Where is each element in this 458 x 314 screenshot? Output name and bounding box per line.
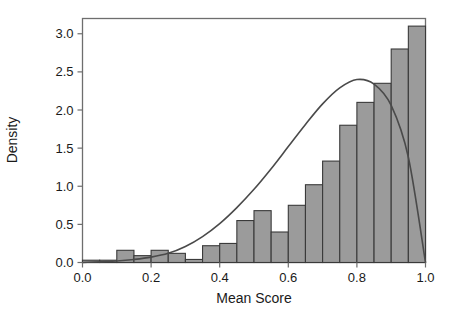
histogram-bar xyxy=(305,185,322,263)
histogram-bar xyxy=(185,259,202,262)
y-axis-title: Density xyxy=(4,117,20,164)
x-tick-label: 0.8 xyxy=(348,270,366,285)
y-tick-label: 0.0 xyxy=(55,255,73,270)
histogram-bar xyxy=(374,83,391,262)
histogram-bar xyxy=(357,102,374,262)
histogram-bar xyxy=(254,211,271,263)
plot-canvas: 0.00.20.40.60.81.0 0.00.51.01.52.02.53.0… xyxy=(0,0,458,314)
histogram-bars xyxy=(83,26,426,262)
x-tick-label: 0.2 xyxy=(142,270,160,285)
histogram-bar xyxy=(408,26,425,262)
histogram-bar xyxy=(288,205,305,262)
histogram-bar xyxy=(220,243,237,262)
x-axis-ticks: 0.00.20.40.60.81.0 xyxy=(73,263,434,285)
histogram-bar xyxy=(168,253,185,262)
density-histogram-figure: 0.00.20.40.60.81.0 0.00.51.01.52.02.53.0… xyxy=(0,0,458,314)
x-tick-label: 0.4 xyxy=(211,270,229,285)
x-tick-label: 1.0 xyxy=(416,270,434,285)
x-axis-title: Mean Score xyxy=(216,290,292,306)
y-tick-label: 0.5 xyxy=(55,217,73,232)
y-tick-label: 1.0 xyxy=(55,179,73,194)
y-tick-label: 2.5 xyxy=(55,64,73,79)
histogram-bar xyxy=(323,161,340,262)
y-tick-label: 1.5 xyxy=(55,141,73,156)
histogram-bar xyxy=(340,125,357,262)
y-axis-ticks: 0.00.51.01.52.02.53.0 xyxy=(55,26,82,270)
x-tick-label: 0.0 xyxy=(73,270,91,285)
histogram-bar xyxy=(271,232,288,263)
histogram-bar xyxy=(391,49,408,263)
y-tick-label: 3.0 xyxy=(55,26,73,41)
histogram-bar xyxy=(203,246,220,263)
x-tick-label: 0.6 xyxy=(279,270,297,285)
histogram-bar xyxy=(237,221,254,263)
y-tick-label: 2.0 xyxy=(55,103,73,118)
